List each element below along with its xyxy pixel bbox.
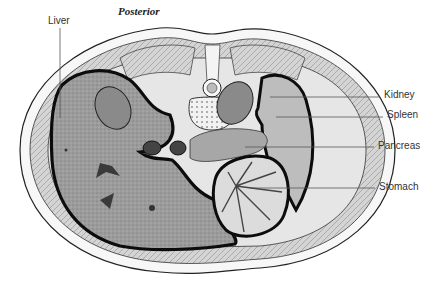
- inferior-vena-cava: [143, 141, 161, 155]
- label-kidney: Kidney: [384, 89, 415, 101]
- aorta: [170, 141, 186, 155]
- label-stomach: Stomach: [379, 181, 418, 193]
- label-pancreas: Pancreas: [378, 140, 420, 152]
- label-liver: Liver: [48, 15, 70, 27]
- abdominal-cross-section-figure: Posterior Liver Kidney Spleen Pancreas S…: [0, 0, 424, 282]
- orientation-label-posterior: Posterior: [118, 5, 160, 17]
- spinous-process: [205, 45, 220, 82]
- stomach: [213, 156, 288, 236]
- cross-section-drawing: [0, 0, 424, 282]
- label-spleen: Spleen: [387, 109, 418, 121]
